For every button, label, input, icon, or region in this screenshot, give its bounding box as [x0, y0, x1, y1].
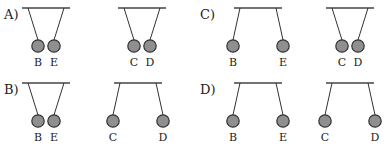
charged-ball-d: [369, 115, 381, 127]
charged-ball-b: [32, 40, 44, 52]
charged-ball-e: [277, 115, 289, 127]
option-label: A): [3, 7, 18, 22]
pendulum-options-diagram: A)BECDB)BECDC)BECDD)BECD: [0, 0, 388, 149]
charged-ball-e: [48, 40, 60, 52]
ball-label: D: [146, 56, 155, 69]
pendulum-string: [276, 8, 283, 40]
ball-label: C: [130, 56, 138, 69]
pendulum-string: [54, 83, 64, 115]
ball-label: C: [338, 56, 346, 69]
ball-label: B: [34, 131, 42, 144]
option-label: C): [200, 7, 215, 22]
pendulum-string: [358, 8, 368, 40]
charged-ball-c: [336, 40, 348, 52]
option-label: D): [200, 82, 216, 97]
pendulum-string: [156, 83, 163, 115]
charged-ball-e: [48, 115, 60, 127]
pendulum-string: [28, 8, 38, 40]
pendulum-string: [113, 83, 120, 115]
charged-ball-c: [128, 40, 140, 52]
ball-label: B: [34, 56, 42, 69]
pendulum-string: [54, 8, 64, 40]
ball-label: E: [50, 131, 58, 144]
pendulum-string: [150, 8, 160, 40]
pendulum-string: [233, 8, 240, 40]
ball-label: B: [229, 131, 237, 144]
charged-ball-d: [352, 40, 364, 52]
ball-label: E: [279, 131, 287, 144]
pendulum-string: [368, 83, 375, 115]
charged-ball-b: [227, 115, 239, 127]
charged-ball-e: [277, 40, 289, 52]
ball-label: D: [159, 131, 168, 144]
pendulum-string: [28, 83, 38, 115]
pendulum-string: [332, 8, 342, 40]
pendulum-string: [124, 8, 134, 40]
pendulum-string: [276, 83, 283, 115]
pendulum-string: [325, 83, 332, 115]
charged-ball-c: [319, 115, 331, 127]
charged-ball-c: [107, 115, 119, 127]
charged-ball-b: [227, 40, 239, 52]
charged-ball-d: [157, 115, 169, 127]
pendulum-string: [233, 83, 240, 115]
ball-label: C: [321, 131, 329, 144]
ball-label: B: [229, 56, 237, 69]
ball-label: C: [109, 131, 117, 144]
ball-label: D: [371, 131, 380, 144]
charged-ball-b: [32, 115, 44, 127]
ball-label: E: [279, 56, 287, 69]
option-label: B): [4, 82, 19, 97]
ball-label: D: [354, 56, 363, 69]
charged-ball-d: [144, 40, 156, 52]
ball-label: E: [50, 56, 58, 69]
